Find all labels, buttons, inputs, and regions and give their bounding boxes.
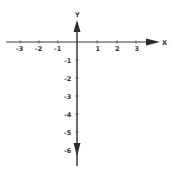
y-axis-up-arrow-icon [74,20,81,32]
y-tick-label: -1 [64,57,72,65]
x-tick-label: -3 [16,45,23,53]
y-tick-label: -5 [64,129,72,137]
x-tick-label: 2 [115,45,120,53]
x-tick-label: 3 [135,45,140,53]
y-axis-label: Y [74,11,80,19]
x-axis-label: X [162,39,167,47]
x-tick-label: -1 [54,45,62,53]
x-tick-label: -2 [35,45,42,53]
y-tick-label: -3 [64,93,71,101]
coordinate-plane: X Y -3 -2 -1 1 2 3 -1 -2 -3 -4 -5 -6 [0,0,173,174]
y-axis-down-arrow-icon [74,143,81,156]
x-axis-arrow-icon [146,39,160,46]
y-tick-label: -2 [64,75,71,83]
y-tick-label: -6 [64,147,72,155]
y-tick-labels: -1 -2 -3 -4 -5 -6 [64,57,72,155]
y-tick-label: -4 [64,111,72,119]
x-tick-label: 1 [96,45,101,53]
